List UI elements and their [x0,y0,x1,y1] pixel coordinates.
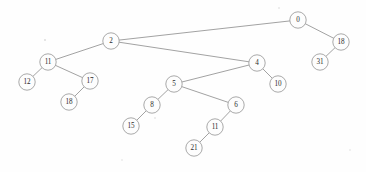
edge-layer [33,21,335,142]
tree-node[interactable]: 11 [207,119,223,135]
node-layer: 01831211121718410581561121 [19,12,349,156]
tree-node[interactable]: 10 [270,76,286,92]
tree-node[interactable]: 2 [103,33,119,49]
tree-node[interactable]: 6 [228,97,244,113]
node-label-0: 0 [296,16,300,24]
tree-edge-5-8 [158,90,168,100]
node-label-6: 6 [234,101,238,109]
tree-node[interactable]: 11 [40,54,56,70]
tree-node[interactable]: 21 [186,140,202,156]
tree-node[interactable]: 5 [166,76,182,92]
node-label-21: 21 [191,144,198,152]
tree-edge-17-18 [75,87,84,96]
tree-node[interactable]: 18 [333,34,349,50]
node-label-2: 2 [109,37,113,45]
tree-node[interactable]: 12 [19,74,35,90]
node-label-12: 12 [24,78,31,86]
tree-edge-4-5 [182,65,249,82]
tree-node[interactable]: 17 [82,73,98,89]
node-label-31: 31 [317,58,324,66]
paper-speck [121,159,122,160]
tree-edge-2-11 [56,44,103,60]
tree-node[interactable]: 4 [249,55,265,71]
tree-edge-8-15 [137,111,146,120]
node-label-8: 8 [150,101,154,109]
tree-node[interactable]: 0 [290,12,306,28]
paper-speck [349,149,350,150]
tree-edge-2-4 [119,42,249,62]
tree-edge-4-10 [263,69,272,78]
tree-node[interactable]: 18 [61,94,77,110]
tree-node[interactable]: 8 [144,97,160,113]
paper-speck [44,39,46,41]
tree-node[interactable]: 31 [312,54,328,70]
tree-diagram: 01831211121718410581561121 [0,0,366,172]
tree-edge-11-17 [55,65,82,77]
tree-edge-0-2 [119,21,290,40]
tree-edge-5-6 [182,87,228,103]
tree-edge-6-11 [221,111,231,121]
paper-speck [154,117,156,119]
node-label-10: 10 [275,80,282,88]
node-label-18: 18 [338,38,345,46]
paper-speck [278,7,280,9]
tree-edge-11-12 [33,68,42,77]
node-label-15: 15 [128,122,135,130]
tree-edge-0-18 [305,24,333,39]
tree-node[interactable]: 15 [123,118,139,134]
node-label-5: 5 [172,80,176,88]
node-label-18: 18 [66,98,73,106]
node-label-4: 4 [255,59,259,67]
node-label-11: 11 [45,58,52,66]
node-label-11: 11 [212,123,219,131]
tree-diagram-canvas: 01831211121718410581561121 [0,0,366,172]
tree-edge-11-21 [200,133,209,142]
tree-edge-18-31 [326,48,335,57]
node-label-17: 17 [87,77,94,85]
